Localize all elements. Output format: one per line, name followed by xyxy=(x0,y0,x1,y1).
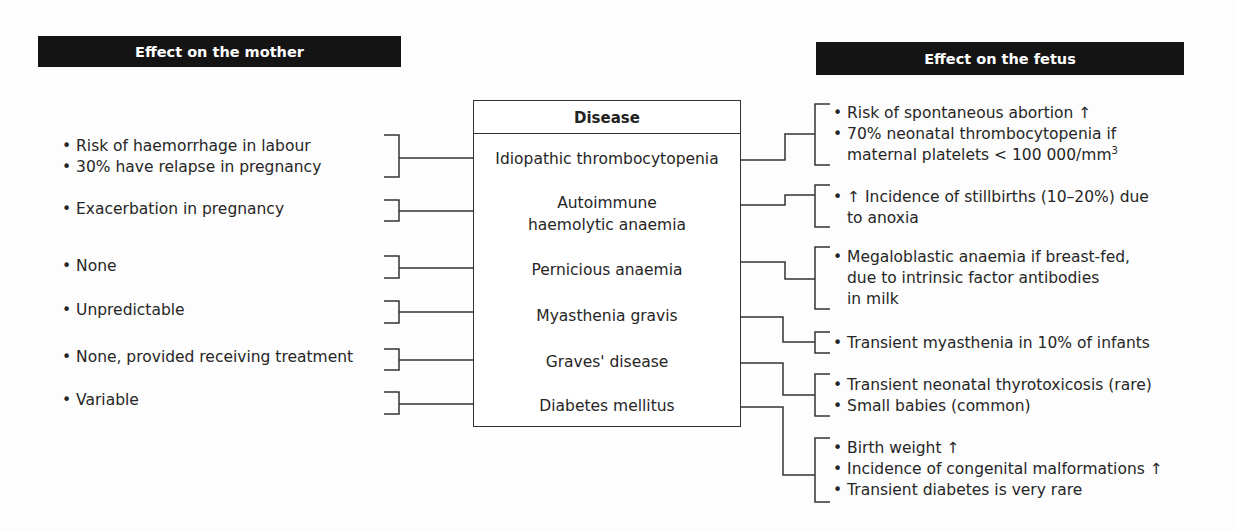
right-bracket-itp xyxy=(815,104,830,165)
mother-effect-line: • Variable xyxy=(62,390,139,411)
fetus-effect-line: • Transient diabetes is very rare xyxy=(833,480,1163,501)
header-effect-on-mother: Effect on the mother xyxy=(38,36,401,67)
fetus-effect-graves: • Transient neonatal thyrotoxicosis (rar… xyxy=(833,375,1152,417)
fetus-effect-line: • 70% neonatal thrombocytopenia if xyxy=(833,124,1118,145)
platelet-text: maternal platelets < 100 000/mm xyxy=(847,146,1111,164)
disease-box: Disease Idiopathic thrombocytopenia Auto… xyxy=(473,100,741,427)
fetus-effect-line: • Megaloblastic anaemia if breast-fed, xyxy=(833,247,1130,268)
right-bracket-aiha xyxy=(815,185,830,227)
left-bracket-aiha xyxy=(384,200,473,221)
right-connector-pernicious xyxy=(741,262,815,279)
mother-effect-line: • 30% have relapse in pregnancy xyxy=(62,157,321,178)
fetus-effect-line: due to intrinsic factor antibodies xyxy=(833,268,1130,289)
fetus-effect-aiha: • ↑ Incidence of stillbirths (10–20%) du… xyxy=(833,187,1149,229)
right-connector-diabetes xyxy=(741,407,815,475)
fetus-effect-line: • Incidence of congenital malformations … xyxy=(833,459,1163,480)
fetus-effect-line: in milk xyxy=(833,289,1130,310)
disease-aiha-line1: Autoimmune xyxy=(474,193,740,214)
fetus-effect-line: maternal platelets < 100 000/mm3 xyxy=(833,145,1118,166)
disease-aiha-line2: haemolytic anaemia xyxy=(474,215,740,236)
fetus-effect-line: • Transient neonatal thyrotoxicosis (rar… xyxy=(833,375,1152,396)
disease-pernicious: Pernicious anaemia xyxy=(474,260,740,281)
right-bracket-pernicious xyxy=(815,247,830,309)
fetus-effect-line: • Transient myasthenia in 10% of infants xyxy=(833,333,1150,354)
fetus-effect-myasthenia: • Transient myasthenia in 10% of infants xyxy=(833,333,1150,354)
mother-effect-line: • None xyxy=(62,256,117,277)
mother-effect-myasthenia: • Unpredictable xyxy=(62,300,185,321)
mother-effect-line: • None, provided receiving treatment xyxy=(62,347,353,368)
right-connector-itp xyxy=(741,134,815,160)
fetus-effect-line: to anoxia xyxy=(833,208,1149,229)
fetus-effect-line: • ↑ Incidence of stillbirths (10–20%) du… xyxy=(833,187,1149,208)
right-bracket-graves xyxy=(815,374,830,416)
left-bracket-pernicious xyxy=(384,256,473,278)
fetus-effect-line: • Small babies (common) xyxy=(833,396,1152,417)
fetus-effect-line: • Birth weight ↑ xyxy=(833,438,1163,459)
mother-effect-line: • Exacerbation in pregnancy xyxy=(62,199,284,220)
left-bracket-myasthenia xyxy=(384,301,473,323)
right-bracket-myasthenia xyxy=(815,332,830,353)
mother-effect-line: • Risk of haemorrhage in labour xyxy=(62,136,321,157)
mother-effect-aiha: • Exacerbation in pregnancy xyxy=(62,199,284,220)
disease-box-title: Disease xyxy=(474,101,740,134)
disease-graves: Graves' disease xyxy=(474,352,740,373)
left-bracket-graves xyxy=(384,349,473,370)
right-connector-myasthenia xyxy=(741,317,815,342)
fetus-effect-pernicious: • Megaloblastic anaemia if breast-fed, d… xyxy=(833,247,1130,310)
right-bracket-diabetes xyxy=(815,438,830,502)
mother-effect-itp: • Risk of haemorrhage in labour • 30% ha… xyxy=(62,136,321,178)
disease-diabetes: Diabetes mellitus xyxy=(474,396,740,417)
disease-myasthenia: Myasthenia gravis xyxy=(474,306,740,327)
mother-effect-graves: • None, provided receiving treatment xyxy=(62,347,353,368)
mother-effect-diabetes: • Variable xyxy=(62,390,139,411)
disease-itp: Idiopathic thrombocytopenia xyxy=(474,149,740,170)
right-connector-aiha xyxy=(741,195,815,205)
header-effect-on-fetus: Effect on the fetus xyxy=(816,42,1184,75)
mother-effect-pernicious: • None xyxy=(62,256,117,277)
right-connector-graves xyxy=(741,363,815,395)
left-bracket-diabetes xyxy=(384,392,473,414)
fetus-effect-diabetes: • Birth weight ↑ • Incidence of congenit… xyxy=(833,438,1163,501)
left-bracket-itp xyxy=(384,135,473,177)
fetus-effect-itp: • Risk of spontaneous abortion ↑ • 70% n… xyxy=(833,103,1118,166)
superscript: 3 xyxy=(1111,145,1117,156)
mother-effect-line: • Unpredictable xyxy=(62,300,185,321)
fetus-effect-line: • Risk of spontaneous abortion ↑ xyxy=(833,103,1118,124)
